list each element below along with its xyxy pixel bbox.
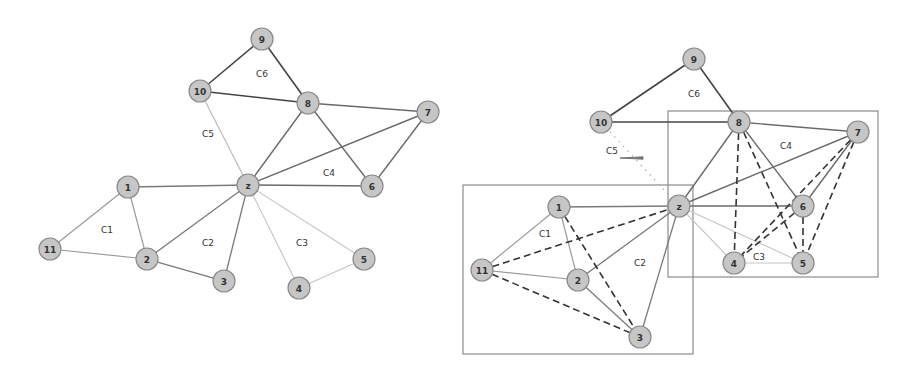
community-graph-figure: C6C5C4C1C2C3 91087z61112345 C6C5C4C1C2C3… <box>0 0 910 377</box>
node-label: 9 <box>259 35 265 45</box>
community-label-c5: C5 <box>202 129 214 139</box>
edge-11-z-dashed <box>482 206 679 270</box>
node-label: 10 <box>595 118 608 128</box>
node-5: 5 <box>792 252 814 274</box>
node-label: 4 <box>731 259 737 269</box>
edge-11-2 <box>482 270 578 280</box>
node-5: 5 <box>353 248 375 270</box>
edge-z-6 <box>248 185 372 186</box>
node-label: 9 <box>691 55 697 65</box>
community-label-c1: C1 <box>539 229 551 239</box>
node-11: 11 <box>39 238 61 260</box>
edge-9-10 <box>601 59 694 122</box>
community-label-c3: C3 <box>296 238 308 248</box>
edge-z-1 <box>559 206 679 207</box>
edge-1-11 <box>50 187 128 249</box>
node-3: 3 <box>213 270 235 292</box>
arrow-right-icon <box>620 157 643 159</box>
edge-z-1 <box>128 185 248 187</box>
node-label: 6 <box>800 202 806 212</box>
node-z: z <box>668 195 690 217</box>
node-label: 2 <box>144 255 150 265</box>
edge-z-4 <box>679 206 734 263</box>
node-7: 7 <box>847 121 869 143</box>
node-6: 6 <box>792 195 814 217</box>
node-2: 2 <box>136 248 158 270</box>
node-label: 3 <box>637 333 643 343</box>
node-label: 4 <box>296 284 302 294</box>
edge-10-8 <box>200 91 308 103</box>
edge-z-2 <box>578 206 679 280</box>
node-4: 4 <box>288 277 310 299</box>
node-9: 9 <box>683 48 705 70</box>
node-8: 8 <box>297 92 319 114</box>
edge-10-z-dotted <box>601 122 679 206</box>
community-label-c6: C6 <box>688 89 700 99</box>
node-label: 3 <box>221 277 227 287</box>
node-11: 11 <box>471 259 493 281</box>
edge-11-2 <box>50 249 147 259</box>
node-label: z <box>676 202 681 212</box>
node-9: 9 <box>251 28 273 50</box>
edge-8-7 <box>739 122 858 132</box>
community-label-c4: C4 <box>323 168 335 178</box>
edge-8-4-dashed <box>734 122 739 263</box>
community-label-c3: C3 <box>753 252 765 262</box>
community-label-c6: C6 <box>256 69 268 79</box>
node-label: 6 <box>369 182 375 192</box>
c5-arrow-icon <box>620 157 643 159</box>
edge-z-4 <box>248 185 299 288</box>
node-3: 3 <box>629 326 651 348</box>
right-nodes: 91087z61112345 <box>471 48 869 348</box>
node-label: 5 <box>800 259 806 269</box>
node-label: 1 <box>556 203 562 213</box>
right-panel-merged-graph: C6C5C4C1C2C3 91087z61112345 <box>463 48 878 354</box>
community-label-c4: C4 <box>780 141 792 151</box>
edge-2-3 <box>147 259 224 281</box>
edge-6-4-dashed <box>734 206 803 263</box>
node-8: 8 <box>728 111 750 133</box>
edge-9-8 <box>262 39 308 103</box>
node-label: 8 <box>305 99 311 109</box>
node-10: 10 <box>590 111 612 133</box>
node-label: 10 <box>194 87 207 97</box>
node-6: 6 <box>361 175 383 197</box>
node-7: 7 <box>417 101 439 123</box>
edge-9-8 <box>694 59 739 122</box>
node-label: z <box>245 181 250 191</box>
node-label: 5 <box>361 255 367 265</box>
node-label: 11 <box>476 266 489 276</box>
edge-11-3-dashed <box>482 270 640 337</box>
community-label-c5: C5 <box>606 146 618 156</box>
node-4: 4 <box>723 252 745 274</box>
edge-z-3 <box>640 206 679 337</box>
left-panel-original-graph: C6C5C4C1C2C3 91087z61112345 <box>39 28 439 299</box>
node-label: 7 <box>425 108 431 118</box>
node-label: 8 <box>736 118 742 128</box>
community-label-c1: C1 <box>101 225 113 235</box>
left-nodes: 91087z61112345 <box>39 28 439 299</box>
edge-8-6 <box>308 103 372 186</box>
node-z: z <box>237 174 259 196</box>
node-label: 2 <box>575 276 581 286</box>
edge-8-7 <box>308 103 428 112</box>
node-label: 7 <box>855 128 861 138</box>
edge-9-10 <box>200 39 262 91</box>
community-label-c2: C2 <box>634 258 646 268</box>
node-10: 10 <box>189 80 211 102</box>
community-label-c2: C2 <box>202 238 214 248</box>
node-label: 11 <box>44 245 57 255</box>
node-label: 1 <box>125 183 131 193</box>
node-1: 1 <box>548 196 570 218</box>
merged-box-c3-c4 <box>668 111 878 277</box>
edge-2-3 <box>578 280 640 337</box>
node-2: 2 <box>567 269 589 291</box>
node-1: 1 <box>117 176 139 198</box>
